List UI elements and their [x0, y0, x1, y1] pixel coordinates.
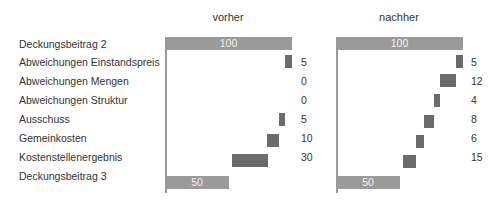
value-label: 5	[301, 56, 307, 69]
row-label: Ausschuss	[19, 113, 70, 126]
row-label: Abweichungen Mengen	[19, 75, 129, 88]
value-label: 30	[301, 151, 313, 164]
row-label: Gemeinkosten	[19, 132, 87, 145]
value-label: 8	[471, 113, 477, 126]
value-label: 5	[301, 113, 307, 126]
value-label: 12	[471, 75, 483, 88]
value-label: 6	[471, 132, 477, 145]
bar-start-total: 100	[336, 37, 463, 50]
value-label: 0	[301, 94, 307, 107]
row-label: Abweichungen Struktur	[19, 94, 128, 107]
row-label: Deckungsbeitrag 2	[19, 38, 107, 51]
bar-delta	[403, 155, 416, 168]
bar-delta	[424, 115, 434, 128]
axis-line	[336, 37, 338, 193]
value-label: 15	[471, 151, 483, 164]
chart-title-nachher: nachher	[379, 11, 419, 23]
bar-delta	[440, 74, 456, 87]
bar-end-total: 50	[336, 176, 400, 189]
row-label: Deckungsbeitrag 3	[19, 170, 107, 183]
value-label: 4	[471, 94, 477, 107]
bar-delta	[285, 55, 292, 68]
bar-delta	[434, 94, 440, 107]
bar-delta	[456, 55, 463, 68]
bar-delta	[279, 113, 285, 126]
axis-line	[165, 37, 167, 193]
value-label: 0	[301, 75, 307, 88]
chart-title-vorher: vorher	[212, 11, 243, 23]
bar-end-total: 50	[165, 176, 229, 189]
row-label: Kostenstellenergebnis	[19, 151, 122, 164]
bar-delta	[232, 154, 268, 167]
bar-start-total: 100	[165, 37, 292, 50]
bar-delta	[267, 134, 279, 147]
bar-delta	[416, 135, 424, 148]
value-label: 10	[301, 132, 313, 145]
value-label: 5	[471, 56, 477, 69]
row-label: Abweichungen Einstandspreis	[19, 56, 160, 69]
